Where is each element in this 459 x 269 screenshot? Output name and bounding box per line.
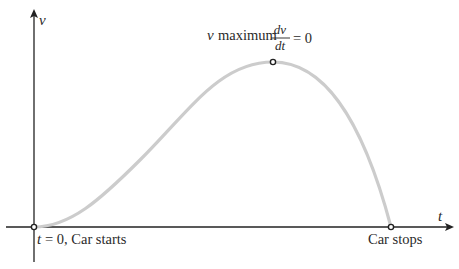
deriv-denominator: dt [275,38,286,53]
start-t-symbol: t [37,231,42,247]
deriv-equals-zero: = 0 [293,30,312,46]
stop-point [388,224,393,229]
velocity-time-diagram: v t v maximum dv dt = 0 t = 0, Car start… [0,0,459,269]
max-point [270,59,275,64]
deriv-numerator: dv [274,22,287,37]
stop-label: Car stops [368,231,423,247]
velocity-curve [34,62,391,227]
t-axis-label: t [438,208,443,224]
v-axis-label: v [39,12,46,28]
max-label: maximum [218,27,278,43]
max-v-symbol: v [207,27,214,43]
start-label: = 0, Car starts [45,231,127,247]
start-point [31,224,36,229]
